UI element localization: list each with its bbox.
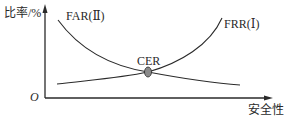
cer-annotation-label: CER <box>137 54 160 69</box>
origin-label: O <box>30 90 39 105</box>
frr-curve <box>57 18 222 84</box>
x-axis-label: 安全性 <box>248 100 284 118</box>
frr-series-label: FRR(Ⅰ) <box>224 17 259 32</box>
y-axis-label: 比率/% <box>4 3 41 21</box>
far-frr-chart: 比率/% 安全性 O FAR(Ⅱ) FRR(Ⅰ) CER <box>0 0 289 122</box>
far-series-label: FAR(Ⅱ) <box>66 9 105 24</box>
y-axis-arrow-icon <box>43 4 48 13</box>
